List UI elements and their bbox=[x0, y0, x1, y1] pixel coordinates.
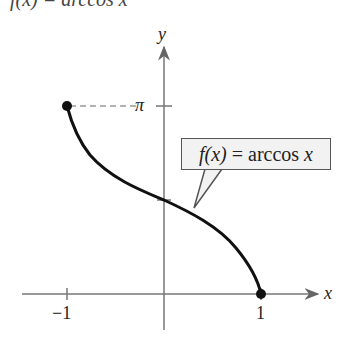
chart-canvas bbox=[0, 0, 357, 351]
y-axis-label: y bbox=[158, 24, 166, 45]
endpoint-1-0 bbox=[256, 289, 266, 299]
endpoint-neg1-pi bbox=[62, 101, 72, 111]
y-tick-label-pi: π bbox=[135, 95, 144, 116]
x-tick-label-1: 1 bbox=[256, 303, 265, 324]
callout-pointer bbox=[194, 169, 222, 208]
x-axis-label: x bbox=[324, 283, 332, 304]
x-tick-label-neg1: −1 bbox=[52, 303, 71, 324]
function-callout: f(x) = arccos x bbox=[181, 138, 331, 170]
